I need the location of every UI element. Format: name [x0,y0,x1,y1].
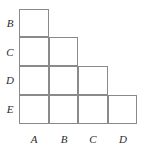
cell-B-C [49,37,78,66]
cell-B-D [49,66,78,95]
cell-C-D [78,66,108,95]
row-label-B: B [3,18,17,29]
cell-A-B [19,9,49,37]
cell-C-E [78,95,108,124]
row-label-D: D [3,75,17,86]
cell-A-C [19,37,49,66]
staircase-grid-diagram: B C D E A B C D [0,0,147,156]
cell-A-D [19,66,49,95]
cell-D-E [108,95,137,124]
col-label-C: C [83,134,103,145]
row-label-C: C [3,47,17,58]
cell-A-E [19,95,49,124]
col-label-B: B [54,134,74,145]
row-label-E: E [3,104,17,115]
cell-B-E [49,95,78,124]
col-label-A: A [24,134,44,145]
col-label-D: D [113,134,133,145]
